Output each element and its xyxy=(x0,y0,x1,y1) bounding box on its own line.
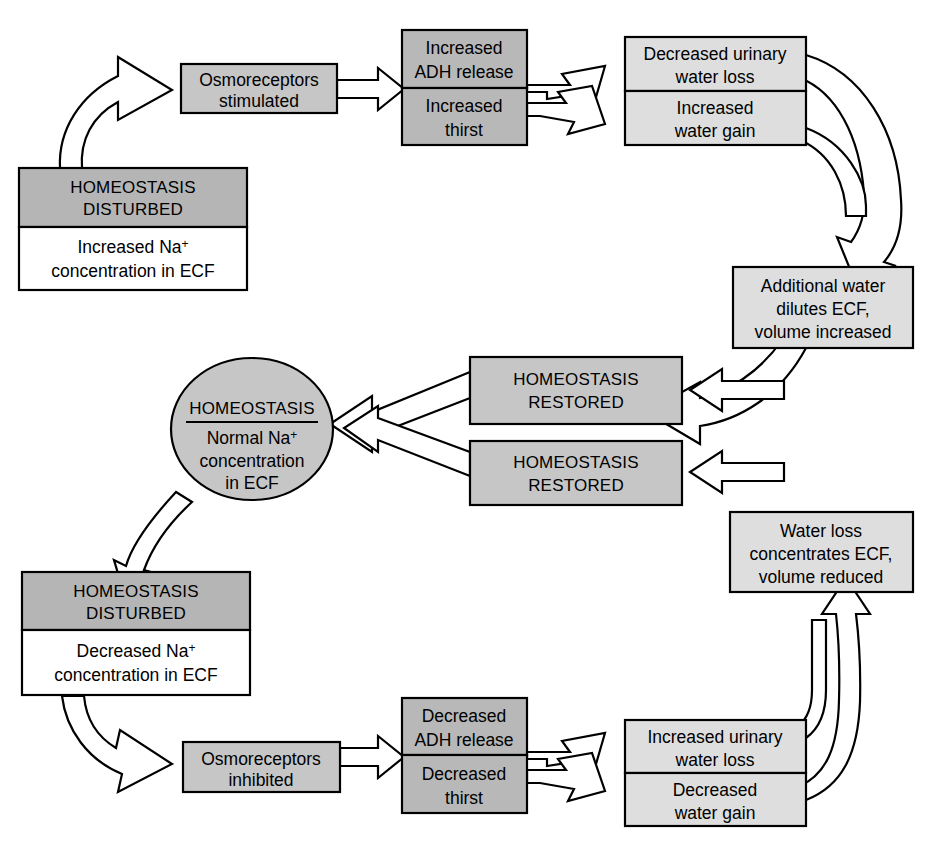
osmoreceptors-stimulated-line2: stimulated xyxy=(219,91,299,111)
disturbed-low-body-line2: concentration in ECF xyxy=(54,665,217,685)
disturbed-high-header-line1: HOMEOSTASIS xyxy=(70,178,196,197)
osmoreceptors-inhibited-line2: inhibited xyxy=(228,770,293,790)
water-gain-effects-bottom-line2: water gain xyxy=(674,121,756,141)
node-osmoreceptors-inhibited[interactable]: Osmoreceptors inhibited xyxy=(183,742,340,792)
adh-increase-bottom-line1: Increased xyxy=(426,96,503,116)
adh-decrease-top-line1: Decreased xyxy=(422,706,507,726)
water-loss-concentrates-line3: volume reduced xyxy=(759,567,884,587)
restored-upper-box xyxy=(470,357,682,424)
node-osmoreceptors-stimulated[interactable]: Osmoreceptors stimulated xyxy=(181,64,337,113)
disturbed-low-body-line1: Decreased Na+ xyxy=(77,641,196,661)
node-water-gain-effects[interactable]: Decreased urinary water loss Increased w… xyxy=(625,37,806,145)
water-loss-effects-bottom-line2: water gain xyxy=(674,803,756,823)
disturbed-high-body-line1: Increased Na+ xyxy=(77,237,188,257)
homeostasis-center-body-line2: concentration xyxy=(199,451,304,471)
additional-water-line3: volume increased xyxy=(754,322,891,342)
arrow-water-loss-to-restored-lower xyxy=(690,451,784,493)
flowchart-svg: HOMEOSTASIS DISTURBED Increased Na+ conc… xyxy=(0,0,946,850)
water-loss-effects-bottom-line1: Decreased xyxy=(673,780,758,800)
disturbed-high-header-line2: DISTURBED xyxy=(83,200,183,219)
water-loss-concentrates-line2: concentrates ECF, xyxy=(750,544,893,564)
restored-upper-line2: RESTORED xyxy=(528,393,624,412)
arrow-water-loss-effects-to-concentrates xyxy=(798,578,870,800)
adh-decrease-bottom-line1: Decreased xyxy=(422,764,507,784)
node-homeostasis-center[interactable]: HOMEOSTASIS Normal Na+ concentration in … xyxy=(171,358,333,500)
water-loss-effects-top-line1: Increased urinary xyxy=(647,727,782,747)
arrow-thirst-decrease-to-decreased-water-gain xyxy=(527,753,605,801)
node-adh-increase[interactable]: Increased ADH release Increased thirst xyxy=(402,30,527,145)
arrow-disturbed-low-to-osmoreceptors-inhibited xyxy=(62,696,172,792)
node-homeostasis-disturbed-low[interactable]: HOMEOSTASIS DISTURBED Decreased Na+ conc… xyxy=(22,572,250,695)
arrow-disturbed-high-to-osmoreceptors xyxy=(60,57,172,168)
water-loss-concentrates-line1: Water loss xyxy=(780,521,862,541)
node-homeostasis-restored-upper[interactable]: HOMEOSTASIS RESTORED xyxy=(470,357,682,424)
arrow-water-gain-to-additional-water xyxy=(800,55,901,274)
osmoreceptors-stimulated-line1: Osmoreceptors xyxy=(199,70,319,90)
water-loss-effects-top-line2: water loss xyxy=(675,750,755,770)
adh-decrease-top-line2: ADH release xyxy=(414,730,513,750)
disturbed-high-body-line2: concentration in ECF xyxy=(51,261,214,281)
restored-lower-box xyxy=(470,441,682,505)
adh-increase-bottom-line2: thirst xyxy=(445,120,483,140)
arrow-osmoreceptors-to-adh-increase xyxy=(337,68,404,110)
adh-increase-top-line1: Increased xyxy=(426,38,503,58)
homeostasis-center-body-line3: in ECF xyxy=(225,473,278,493)
node-additional-water[interactable]: Additional water dilutes ECF, volume inc… xyxy=(733,267,913,348)
additional-water-line1: Additional water xyxy=(761,276,886,296)
node-homeostasis-restored-lower[interactable]: HOMEOSTASIS RESTORED xyxy=(470,441,682,505)
node-adh-decrease[interactable]: Decreased ADH release Decreased thirst xyxy=(402,698,527,813)
disturbed-low-header-line2: DISTURBED xyxy=(86,604,186,623)
node-water-loss-effects[interactable]: Increased urinary water loss Decreased w… xyxy=(625,720,806,826)
arrow-osmoreceptors-inhibited-to-adh-decrease xyxy=(340,736,404,778)
disturbed-low-header-line1: HOMEOSTASIS xyxy=(73,582,199,601)
water-gain-effects-bottom-line1: Increased xyxy=(677,98,754,118)
disturbed-low-body-band xyxy=(22,630,250,695)
restored-lower-line2: RESTORED xyxy=(528,476,624,495)
restored-lower-line1: HOMEOSTASIS xyxy=(513,453,639,472)
figure-canvas: HOMEOSTASIS DISTURBED Increased Na+ conc… xyxy=(0,0,946,850)
node-water-loss-concentrates[interactable]: Water loss concentrates ECF, volume redu… xyxy=(730,512,913,592)
node-homeostasis-disturbed-high[interactable]: HOMEOSTASIS DISTURBED Increased Na+ conc… xyxy=(19,168,247,290)
adh-decrease-bottom-line2: thirst xyxy=(445,788,483,808)
homeostasis-center-body-line1: Normal Na+ xyxy=(207,428,298,448)
arrow-thirst-to-increased-water-gain xyxy=(527,86,605,134)
additional-water-line2: dilutes ECF, xyxy=(776,299,869,319)
water-gain-effects-top-line2: water loss xyxy=(675,67,755,87)
osmoreceptors-inhibited-line1: Osmoreceptors xyxy=(201,749,321,769)
adh-increase-top-line2: ADH release xyxy=(414,62,513,82)
restored-upper-line1: HOMEOSTASIS xyxy=(513,370,639,389)
homeostasis-center-title: HOMEOSTASIS xyxy=(189,399,315,418)
water-gain-effects-top-line1: Decreased urinary xyxy=(644,44,787,64)
